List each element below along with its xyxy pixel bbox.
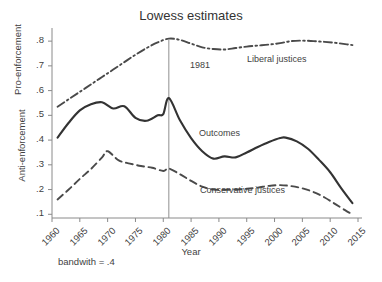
x-tick-marks	[52, 218, 358, 222]
annotation-1981-label: 1981	[190, 60, 210, 70]
y-tick-label: .5	[24, 108, 44, 119]
series-label-liberal-justices: Liberal justices	[247, 54, 307, 64]
y-tick-label: .1	[24, 207, 44, 218]
lowess-estimates-chart: Lowess estimates Pro-enforcement Anti-en…	[0, 0, 382, 282]
y-tick-marks	[48, 41, 52, 214]
series-label-conservative-justices: Conservative justices	[200, 185, 285, 195]
y-tick-label: .7	[24, 59, 44, 70]
series-line-liberal-justices	[58, 39, 353, 107]
series-label-outcomes: Outcomes	[199, 128, 240, 138]
y-tick-label: .6	[24, 84, 44, 95]
y-tick-label: .8	[24, 34, 44, 45]
y-tick-label: .4	[24, 133, 44, 144]
y-tick-label: .3	[24, 158, 44, 169]
series-line-conservative-justices	[58, 151, 353, 214]
y-tick-label: .2	[24, 183, 44, 194]
